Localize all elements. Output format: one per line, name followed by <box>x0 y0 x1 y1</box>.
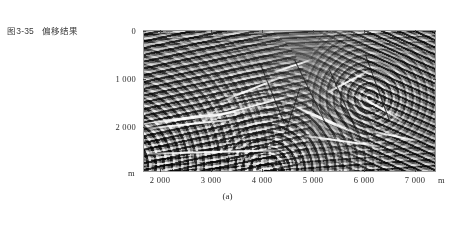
x-tick-top-2000 <box>160 30 161 33</box>
figure-title: 偏移结果 <box>42 26 79 36</box>
x-tick-label-2000: 2 000 <box>138 175 182 185</box>
x-tick-label-7000: 7 000 <box>393 175 437 185</box>
y-tick-left-1000 <box>143 79 146 80</box>
x-tick-label-5000: 5 000 <box>291 175 335 185</box>
plot-frame <box>143 30 436 172</box>
y-tick-right-0 <box>433 31 436 32</box>
y-tick-left-0 <box>143 31 146 32</box>
y-tick-right-2000 <box>433 127 436 128</box>
x-tick-bottom-5000 <box>313 169 314 172</box>
y-tick-right-1000 <box>433 79 436 80</box>
figure-caption: 图3-35 偏移结果 <box>7 24 79 36</box>
y-tick-label-1000: 1 000 <box>100 74 136 84</box>
x-tick-label-3000: 3 000 <box>189 175 233 185</box>
y-axis-unit-label: m <box>128 168 135 178</box>
x-tick-top-4000 <box>262 30 263 33</box>
y-tick-label-2000: 2 000 <box>100 122 136 132</box>
x-tick-top-5000 <box>313 30 314 33</box>
x-tick-top-6000 <box>364 30 365 33</box>
x-tick-bottom-2000 <box>160 169 161 172</box>
seismic-section-plot <box>143 30 436 172</box>
x-tick-bottom-7000 <box>415 169 416 172</box>
subfigure-label: (a) <box>0 191 455 201</box>
y-tick-label-0: 0 <box>100 26 136 36</box>
x-tick-label-6000: 6 000 <box>342 175 386 185</box>
x-tick-bottom-4000 <box>262 169 263 172</box>
y-tick-left-2000 <box>143 127 146 128</box>
x-axis-unit-label: m <box>438 175 445 185</box>
x-tick-top-3000 <box>211 30 212 33</box>
x-tick-top-7000 <box>415 30 416 33</box>
x-tick-bottom-3000 <box>211 169 212 172</box>
shallow-layering <box>143 30 436 58</box>
figure-number: 图3-35 <box>7 26 34 36</box>
x-tick-bottom-6000 <box>364 169 365 172</box>
x-tick-label-4000: 4 000 <box>240 175 284 185</box>
